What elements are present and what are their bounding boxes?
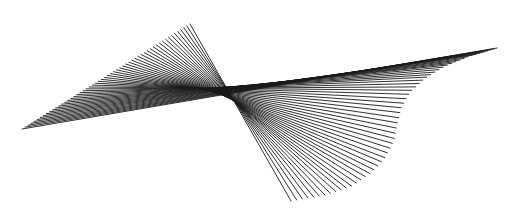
string-line bbox=[184, 28, 303, 199]
string-art-canvas bbox=[0, 0, 521, 212]
string-line bbox=[178, 32, 314, 197]
string-line bbox=[175, 34, 320, 197]
string-line bbox=[190, 24, 291, 201]
string-line bbox=[172, 36, 325, 196]
string-line bbox=[138, 57, 378, 166]
string-line bbox=[166, 39, 336, 191]
string-line bbox=[147, 51, 365, 177]
string-lines bbox=[22, 24, 497, 201]
string-line bbox=[163, 41, 342, 190]
string-line bbox=[144, 53, 370, 174]
string-line bbox=[153, 47, 356, 183]
string-line bbox=[141, 55, 374, 170]
string-line bbox=[156, 45, 351, 186]
